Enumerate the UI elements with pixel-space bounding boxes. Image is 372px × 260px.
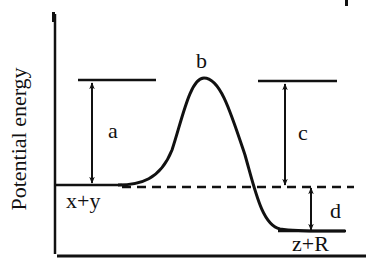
label-a: a [108, 120, 118, 142]
energy-diagram: Potential energy a b c d x+y z+R [0, 0, 372, 260]
energy-diagram-svg [0, 0, 372, 260]
top-cut-fragment [52, 0, 348, 22]
y-axis-label-text: Potential energy [6, 67, 32, 210]
label-b: b [196, 50, 207, 72]
label-reactants: x+y [66, 190, 100, 212]
y-axis-label: Potential energy [4, 22, 34, 256]
label-products: z+R [292, 233, 329, 255]
label-c: c [298, 122, 308, 144]
label-d: d [330, 200, 341, 222]
